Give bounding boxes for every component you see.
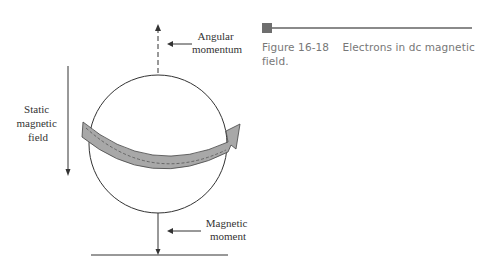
angular-momentum-arrowhead (155, 24, 161, 31)
figure-number: Figure 16-18 (262, 41, 329, 53)
caption-rule-marker (262, 23, 272, 33)
static-field-label: Static magnetic field (16, 103, 59, 143)
figure-caption: Figure 16-18 Electrons in dc magnetic fi… (262, 40, 487, 68)
rotation-band-icon (82, 122, 240, 169)
angular-momentum-label: Angular momentum (192, 30, 243, 55)
static-field-arrowhead (66, 169, 71, 176)
magnetic-moment-label: Magnetic moment (206, 217, 250, 242)
caption-rule-line (272, 27, 472, 29)
magnetic-moment-arrowhead (156, 249, 161, 255)
